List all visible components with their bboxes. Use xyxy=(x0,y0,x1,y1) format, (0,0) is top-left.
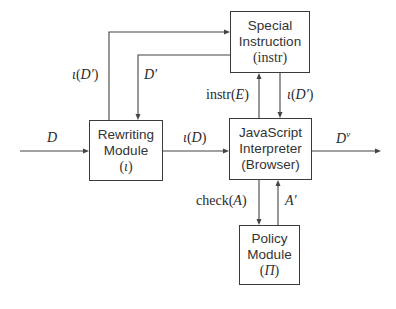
rewriting-module-symbol: (ι) xyxy=(119,159,132,175)
arrowhead-icon xyxy=(375,149,381,154)
rewriting-module-box: Rewriting Module (ι) xyxy=(89,120,163,181)
js-interpreter-line1: JavaScript xyxy=(239,125,302,141)
label-check-a: check(A) xyxy=(196,193,247,209)
label-a-prime: A′ xyxy=(285,193,297,209)
label-iota-d-prime-left: ι(D′) xyxy=(72,67,98,83)
policy-module-box: Policy Module (Π) xyxy=(239,225,300,285)
special-instruction-box: Special Instruction (instr) xyxy=(230,11,310,73)
special-instruction-line3: (instr) xyxy=(253,50,287,66)
special-instruction-line1: Special xyxy=(248,18,292,34)
policy-module-line2: Module xyxy=(247,247,291,263)
arrowhead-icon xyxy=(276,180,281,186)
arrowhead-icon xyxy=(257,73,262,79)
edge-iota-d-prime-left xyxy=(109,32,226,120)
js-interpreter-line3: (Browser) xyxy=(241,157,300,173)
policy-module-line1: Policy xyxy=(251,231,287,247)
rewriting-module-line2: Module xyxy=(104,143,148,159)
label-instr-e: instr(E) xyxy=(206,87,249,103)
label-iota-d-prime-right: ι(D′) xyxy=(287,87,313,103)
edge-d-prime xyxy=(138,55,230,116)
label-output-dv: Dν xyxy=(336,129,350,147)
diagram-canvas: Special Instruction (instr) Rewriting Mo… xyxy=(0,0,396,309)
label-input-d: D xyxy=(47,130,57,146)
rewriting-module-line1: Rewriting xyxy=(98,127,154,143)
connector-lines xyxy=(0,0,396,309)
js-interpreter-line2: Interpreter xyxy=(239,141,301,157)
policy-module-symbol: (Π) xyxy=(260,263,279,279)
label-d-prime: D′ xyxy=(144,67,157,83)
special-instruction-line2: Instruction xyxy=(239,34,301,50)
js-interpreter-box: JavaScript Interpreter (Browser) xyxy=(229,118,312,180)
label-rewritten-d: ι(D) xyxy=(183,130,206,146)
